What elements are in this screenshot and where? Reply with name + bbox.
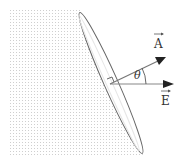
flux-diagram: θ A E [0, 0, 184, 163]
label-E-group: E [161, 90, 171, 109]
angle-label: θ [134, 69, 141, 82]
area-vector-label: A [153, 37, 163, 51]
angle-arc [142, 68, 146, 84]
label-A-group: A [153, 33, 164, 52]
field-vector-label: E [161, 94, 170, 108]
